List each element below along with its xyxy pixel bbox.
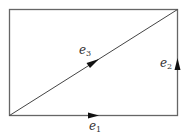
edge-label-e1: e1 <box>89 119 101 134</box>
diagram-canvas: e1 e2 e3 <box>0 0 189 137</box>
